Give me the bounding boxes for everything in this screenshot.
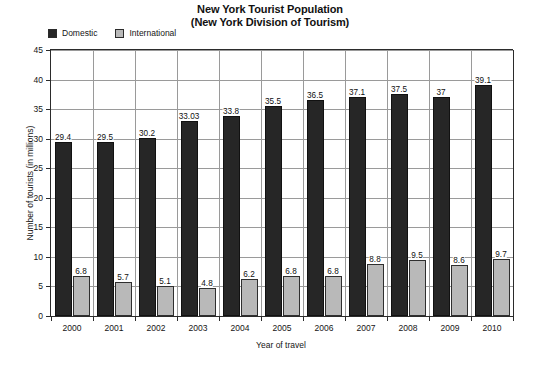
legend-label: Domestic <box>62 28 97 38</box>
chart-legend: DomesticInternational <box>48 28 176 38</box>
x-axis-tick-mark <box>51 316 52 321</box>
bar-value-label: 39.1 <box>475 76 492 85</box>
bar-chart: New York Tourist Population (New York Di… <box>0 0 540 366</box>
legend-entry-international[interactable]: International <box>115 28 176 38</box>
y-axis-tick-label: 45 <box>9 45 43 55</box>
bar-value-label: 8.6 <box>453 256 465 265</box>
bar-group: 37.18.8 <box>345 50 387 316</box>
bar-value-label: 37.5 <box>391 85 408 94</box>
bar-value-label: 29.5 <box>97 133 114 142</box>
plot-area: 05101520253035404529.46.8200029.55.72001… <box>50 49 513 317</box>
x-axis-tick-label: 2002 <box>147 323 166 333</box>
bar-value-label: 37.1 <box>349 88 366 97</box>
bar-international[interactable]: 6.2 <box>241 279 258 316</box>
bar-domestic[interactable]: 30.2 <box>139 138 156 317</box>
x-axis-tick-mark <box>135 316 136 321</box>
bar-domestic[interactable]: 33.8 <box>223 116 240 316</box>
x-axis-tick-label: 2007 <box>357 323 376 333</box>
bar-value-label: 5.1 <box>159 277 171 286</box>
bar-domestic[interactable]: 37.5 <box>391 94 408 316</box>
x-axis-tick-label: 2008 <box>399 323 418 333</box>
bar-domestic[interactable]: 37.1 <box>349 97 366 316</box>
bar-domestic[interactable]: 29.5 <box>97 142 114 316</box>
legend-swatch-icon <box>115 29 124 38</box>
bar-value-label: 36.5 <box>307 91 324 100</box>
bar-domestic[interactable]: 29.4 <box>55 142 72 316</box>
legend-swatch-icon <box>48 29 57 38</box>
x-axis-tick-mark <box>303 316 304 321</box>
x-axis-tick-label: 2006 <box>315 323 334 333</box>
bar-international[interactable]: 6.8 <box>73 276 90 316</box>
bar-group: 37.59.5 <box>387 50 429 316</box>
chart-title: New York Tourist Population (New York Di… <box>0 3 540 29</box>
x-axis-tick-mark <box>471 316 472 321</box>
bar-value-label: 9.7 <box>495 250 507 259</box>
bar-value-label: 29.4 <box>55 133 72 142</box>
bar-value-label: 35.5 <box>265 97 282 106</box>
bar-group: 33.034.8 <box>177 50 219 316</box>
bar-international[interactable]: 6.8 <box>283 276 300 316</box>
x-axis-tick-mark <box>387 316 388 321</box>
bar-group: 35.56.8 <box>261 50 303 316</box>
x-axis-tick-mark <box>513 316 514 321</box>
bar-value-label: 6.8 <box>327 267 339 276</box>
bar-value-label: 9.5 <box>411 251 423 260</box>
legend-entry-domestic[interactable]: Domestic <box>48 28 97 38</box>
x-axis-tick-mark <box>177 316 178 321</box>
x-axis-tick-label: 2001 <box>105 323 124 333</box>
x-axis-tick-mark <box>219 316 220 321</box>
x-axis-title: Year of travel <box>50 340 512 350</box>
bar-international[interactable]: 9.7 <box>493 259 510 316</box>
bar-international[interactable]: 9.5 <box>409 260 426 316</box>
x-axis-tick-label: 2005 <box>273 323 292 333</box>
bar-international[interactable]: 4.8 <box>199 288 216 316</box>
bar-value-label: 37 <box>436 88 446 97</box>
bar-domestic[interactable]: 39.1 <box>475 85 492 316</box>
bar-value-label: 33.8 <box>223 107 240 116</box>
bar-group: 36.56.8 <box>303 50 345 316</box>
x-axis-tick-mark <box>345 316 346 321</box>
bar-group: 378.6 <box>429 50 471 316</box>
bar-domestic[interactable]: 33.03 <box>181 121 198 316</box>
bar-domestic[interactable]: 36.5 <box>307 100 324 316</box>
x-axis-tick-label: 2004 <box>231 323 250 333</box>
bar-domestic[interactable]: 37 <box>433 97 450 316</box>
bar-international[interactable]: 5.7 <box>115 282 132 316</box>
bar-group: 29.46.8 <box>51 50 93 316</box>
bar-value-label: 8.8 <box>369 255 381 264</box>
bar-value-label: 6.8 <box>285 267 297 276</box>
chart-title-line-1: New York Tourist Population <box>0 3 540 16</box>
bar-value-label: 30.2 <box>139 129 156 138</box>
x-axis-tick-label: 2009 <box>441 323 460 333</box>
bar-value-label: 6.2 <box>243 270 255 279</box>
x-axis-tick-mark <box>261 316 262 321</box>
bar-international[interactable]: 8.6 <box>451 265 468 316</box>
bar-group: 29.55.7 <box>93 50 135 316</box>
x-axis-tick-label: 2010 <box>483 323 502 333</box>
bar-value-label: 5.7 <box>117 273 129 282</box>
legend-label: International <box>129 28 176 38</box>
bar-value-label: 6.8 <box>75 267 87 276</box>
bar-value-label: 33.03 <box>178 112 200 121</box>
bar-international[interactable]: 8.8 <box>367 264 384 316</box>
x-axis-tick-label: 2000 <box>63 323 82 333</box>
bar-group: 30.25.1 <box>135 50 177 316</box>
bar-group: 33.86.2 <box>219 50 261 316</box>
y-axis-title: Number of tourists (in millions) <box>25 83 35 283</box>
bar-value-label: 4.8 <box>201 279 213 288</box>
bar-international[interactable]: 6.8 <box>325 276 342 316</box>
x-axis-tick-label: 2003 <box>189 323 208 333</box>
bar-group: 39.19.7 <box>471 50 513 316</box>
bar-international[interactable]: 5.1 <box>157 286 174 316</box>
x-axis-tick-mark <box>429 316 430 321</box>
plot-right-border <box>513 50 514 316</box>
y-axis-tick-label: 0 <box>9 311 43 321</box>
x-axis-tick-mark <box>93 316 94 321</box>
bar-domestic[interactable]: 35.5 <box>265 106 282 316</box>
